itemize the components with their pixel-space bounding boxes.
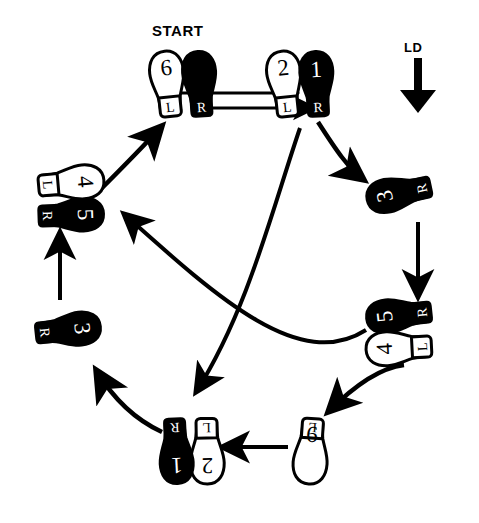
- arrow-one-to-three-left: [96, 370, 162, 432]
- footprint-step-number: 4: [372, 342, 398, 355]
- arrow-four-to-start: [98, 126, 162, 192]
- footprint-bottom-6: 6 L: [292, 417, 330, 485]
- footprint-right-5: 5 R: [364, 295, 433, 336]
- footprint-step-number: 1: [310, 57, 323, 83]
- footprint-step-number: 5: [73, 208, 98, 220]
- dance-step-diagram: START LD: [0, 0, 479, 523]
- footprint-heel-tag: R: [196, 100, 207, 116]
- footprint-heel-tag: L: [165, 99, 175, 115]
- arrow-diagonal-bottom-to-left: [124, 214, 366, 342]
- footprint-heel-tag: L: [40, 180, 56, 190]
- footprint-left-3: 3 R: [34, 310, 103, 351]
- footprint-left-5: 5 R: [38, 197, 105, 233]
- footprint-start-left-6: 6 L: [148, 49, 189, 118]
- footprint-heel-tag: L: [282, 99, 292, 115]
- footprint-right-4: 4 L: [365, 329, 432, 366]
- arrow-four-to-six: [328, 365, 404, 412]
- footprint-bottom-2: 2 L: [189, 418, 224, 484]
- footprint-heel-tag: R: [40, 211, 55, 222]
- footprint-heel-tag: L: [415, 342, 430, 351]
- footprint-left-4: 4 L: [37, 163, 105, 203]
- footprint-heel-tag: R: [169, 420, 180, 436]
- diagram-canvas: 6 L R 2 L 1 R 3 R: [0, 0, 479, 523]
- footprint-step-number: 2: [201, 453, 213, 478]
- footprint-step-number: 1: [170, 453, 183, 479]
- ld-down-arrow-icon: [400, 58, 436, 113]
- footprint-heel-tag: L: [202, 420, 211, 435]
- footprint-heel-tag: L: [308, 420, 318, 436]
- arrow-diagonal-top-to-bottom: [196, 128, 300, 392]
- footprint-heel-tag: R: [313, 100, 324, 116]
- footprint-right-3: 3 R: [363, 170, 434, 217]
- footprint-bottom-1: 1 R: [157, 418, 194, 485]
- arrow-one-to-three: [318, 122, 364, 180]
